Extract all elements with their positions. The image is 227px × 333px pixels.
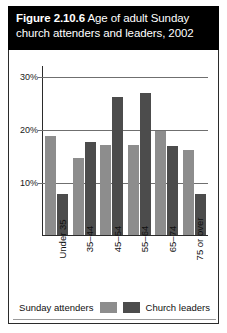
figure-title-line2: church attenders and leaders, 2002	[16, 26, 211, 41]
legend-label-attenders: Sunday attenders	[19, 302, 93, 313]
bar-group	[98, 66, 126, 235]
bar	[183, 150, 194, 235]
x-tick-label: 55–64	[139, 226, 150, 252]
bar-group	[71, 66, 99, 235]
x-axis-labels: Under 3535–4445–5455–6465–7475 or over	[43, 237, 208, 297]
y-tick-mark	[38, 130, 42, 131]
legend-swatch-leaders-icon	[123, 302, 140, 313]
y-tick-label: 10%	[20, 178, 38, 188]
plot-area: 30%20%10%	[42, 66, 208, 236]
page-title: Figure 2.10.6 Age of adult Sunday	[16, 11, 211, 26]
x-label-cell: 45–54	[98, 237, 126, 297]
figure-title-band: Figure 2.10.6 Age of adult Sunday church…	[8, 6, 219, 50]
figure-number: Figure 2.10.6	[16, 12, 85, 24]
bar-group	[43, 66, 71, 235]
figure-container: Figure 2.10.6 Age of adult Sunday church…	[8, 6, 219, 324]
bar	[155, 131, 166, 235]
bar-group	[181, 66, 209, 235]
x-tick-label: 35–44	[84, 226, 95, 252]
x-tick-label: 65–74	[167, 226, 178, 252]
y-tick-mark	[38, 183, 42, 184]
x-tick-label: 75 or over	[194, 218, 205, 261]
y-tick-label: 30%	[20, 72, 38, 82]
x-label-cell: 65–74	[153, 237, 181, 297]
legend-label-leaders: Church leaders	[146, 302, 210, 313]
legend-swatch-attenders-icon	[100, 302, 117, 313]
bar	[128, 145, 139, 235]
x-label-cell: 35–44	[71, 237, 99, 297]
y-tick-mark	[38, 77, 42, 78]
bar	[45, 136, 56, 235]
bar-group	[153, 66, 181, 235]
bar-group	[126, 66, 154, 235]
bar	[112, 97, 123, 235]
bar	[85, 142, 96, 235]
bar-groups	[43, 66, 208, 235]
y-tick-label: 20%	[20, 125, 38, 135]
chart-legend: Sunday attenders Church leaders	[9, 297, 220, 317]
x-label-cell: 55–64	[126, 237, 154, 297]
x-tick-label: Under 35	[57, 219, 68, 258]
bar	[167, 146, 178, 235]
x-tick-label: 45–54	[112, 226, 123, 252]
bar	[140, 93, 151, 235]
legend-divider	[13, 319, 216, 320]
x-label-cell: Under 35	[43, 237, 71, 297]
chart-body: 30%20%10% Under 3535–4445–5455–6465–7475…	[8, 50, 219, 324]
bar	[73, 158, 84, 235]
bar	[100, 145, 111, 235]
figure-title-rest: Age of adult Sunday	[85, 12, 189, 24]
x-label-cell: 75 or over	[181, 237, 209, 297]
